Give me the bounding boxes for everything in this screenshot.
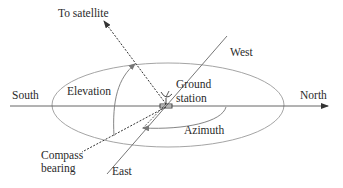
ground-label: Ground xyxy=(176,78,211,90)
elevation-label: Elevation xyxy=(67,85,111,97)
to-satellite-label: To satellite xyxy=(58,7,109,19)
compass-label: Compass xyxy=(41,149,83,161)
north-label: North xyxy=(300,89,327,101)
west-label: West xyxy=(230,46,253,58)
satellite-direction-line xyxy=(104,21,166,104)
bearing-label: bearing xyxy=(41,162,75,174)
station-label: station xyxy=(176,92,207,104)
south-label: South xyxy=(12,89,39,101)
horizon-ellipse xyxy=(52,63,284,147)
azimuth-label: Azimuth xyxy=(184,124,224,136)
ground-station-antenna-icon xyxy=(160,91,172,108)
compass-bearing-line xyxy=(82,107,166,152)
west-east-axis xyxy=(107,36,227,174)
east-label: East xyxy=(112,165,132,177)
